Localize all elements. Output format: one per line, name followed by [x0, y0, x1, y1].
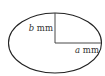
b-unit: mm	[34, 23, 53, 33]
a-mm-label: a mm	[75, 45, 99, 55]
b-mm-label: b mm	[29, 23, 53, 33]
ellipse-diagram: b mm a mm	[0, 0, 105, 76]
a-unit: mm	[80, 45, 99, 55]
